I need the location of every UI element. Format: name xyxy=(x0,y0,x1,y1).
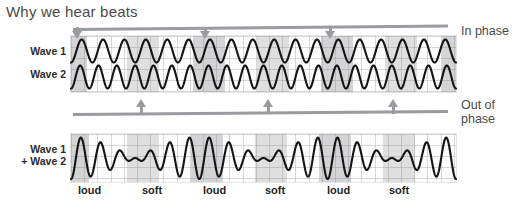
source-waves-plot xyxy=(71,36,456,92)
beat-label-loud: loud xyxy=(78,184,101,196)
out-of-phase-caption-line2: phase xyxy=(461,112,495,126)
out-of-phase-caption: Out of phase xyxy=(461,98,495,126)
in-phase-arrow-icon xyxy=(325,31,335,39)
in-phase-arrow-icon xyxy=(72,31,82,39)
in-phase-line xyxy=(73,24,448,31)
sum-wave-trace xyxy=(71,138,456,179)
out-of-phase-arrow-stem xyxy=(140,106,143,114)
out-of-phase-arrow-stem xyxy=(392,106,395,114)
in-phase-caption: In phase xyxy=(461,24,509,38)
wave1-trace xyxy=(71,40,456,63)
beats-figure: Why we hear beats Wave 1 Wave 2 Wave 1 +… xyxy=(0,0,529,211)
beat-label-loud: loud xyxy=(327,184,350,196)
wave2-trace xyxy=(71,66,456,89)
source-waves-panel xyxy=(71,36,456,92)
out-of-phase-arrow-icon xyxy=(136,99,146,107)
superposition-panel xyxy=(71,134,456,182)
beat-label-soft: soft xyxy=(142,184,162,196)
superposition-plot xyxy=(71,134,456,182)
wave2-label: Wave 2 xyxy=(8,68,66,80)
wave1-label: Wave 1 xyxy=(8,45,66,57)
out-of-phase-arrow-icon xyxy=(388,99,398,107)
sum-label-line2: + Wave 2 xyxy=(4,155,66,167)
in-phase-arrow-icon xyxy=(200,31,210,39)
sum-label-line1: Wave 1 xyxy=(8,143,66,155)
beat-label-loud: loud xyxy=(203,184,226,196)
page-title: Why we hear beats xyxy=(6,3,138,20)
beat-label-soft: soft xyxy=(265,184,285,196)
out-of-phase-arrow-stem xyxy=(267,106,270,114)
out-of-phase-caption-line1: Out of xyxy=(461,98,495,112)
out-of-phase-arrow-icon xyxy=(263,99,273,107)
beat-label-soft: soft xyxy=(389,184,409,196)
